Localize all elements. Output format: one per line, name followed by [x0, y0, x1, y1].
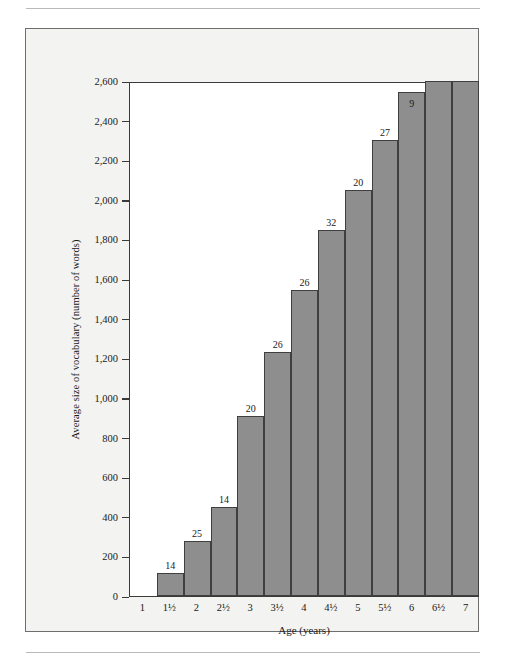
bar-value-label: 26	[291, 277, 318, 288]
bar-value-label: 20	[237, 403, 264, 414]
bar-column: 9	[398, 83, 425, 596]
y-tick-mark	[122, 517, 129, 518]
x-tick-label: 1½	[156, 601, 183, 615]
top-divider-rule	[26, 8, 480, 9]
bar-column: 32	[318, 83, 345, 596]
x-tick-label: 6	[398, 601, 425, 615]
y-tick-mark	[122, 319, 129, 320]
bar	[184, 541, 211, 596]
y-tick-mark	[122, 161, 129, 162]
bar-value-label: 32	[318, 217, 345, 228]
bar-column	[425, 83, 452, 596]
y-tick-label: 600	[102, 471, 118, 484]
x-tick-label: 2	[183, 601, 210, 615]
bar	[264, 352, 291, 596]
bar-value-label: 9	[398, 98, 425, 109]
x-tick-label: 4	[291, 601, 318, 615]
bar	[211, 507, 238, 596]
bar-column	[452, 83, 479, 596]
bar-value-label: 25	[184, 528, 211, 539]
x-tick-label: 3	[237, 601, 264, 615]
y-tick-mark	[122, 82, 129, 83]
y-tick-label: 2,000	[94, 194, 118, 207]
y-tick-label: 400	[102, 511, 118, 524]
y-tick-label: 200	[102, 550, 118, 563]
bar-column: 26	[264, 83, 291, 596]
x-axis-tick-labels: 11½22½33½44½55½66½7	[129, 601, 479, 615]
bar	[398, 92, 425, 596]
y-tick-mark	[122, 597, 129, 598]
bar-value-label: 14	[157, 560, 184, 571]
bar-series: 1425142026263220279	[130, 83, 479, 596]
bar-value-label: 26	[264, 339, 291, 350]
y-axis: 02004006008001,0001,2001,4001,6001,8002,…	[26, 82, 129, 597]
y-tick-label: 2,600	[94, 75, 118, 88]
bar	[237, 416, 264, 596]
y-tick-label: 1,400	[94, 313, 118, 326]
bar-column	[130, 83, 157, 596]
y-tick-label: 2,200	[94, 154, 118, 167]
bar	[345, 190, 372, 596]
y-tick-label: 800	[102, 432, 118, 445]
y-tick-mark	[122, 438, 129, 439]
bar	[291, 290, 318, 596]
y-tick-mark	[122, 280, 129, 281]
y-tick-label: 1,200	[94, 352, 118, 365]
plot-area: 1425142026263220279	[129, 82, 479, 597]
y-tick-mark	[122, 398, 129, 399]
bar-column: 20	[345, 83, 372, 596]
y-tick-mark	[122, 557, 129, 558]
y-tick-label: 1,800	[94, 233, 118, 246]
bar	[452, 81, 479, 596]
y-tick-mark	[122, 121, 129, 122]
x-tick-label: 5½	[371, 601, 398, 615]
figure-frame: Average size of vocabulary (number of wo…	[25, 28, 479, 632]
bar	[318, 230, 345, 596]
x-tick-label: 1	[129, 601, 156, 615]
y-tick-label: 1,000	[94, 392, 118, 405]
bar-column: 26	[291, 83, 318, 596]
x-tick-label: 7	[452, 601, 479, 615]
y-tick-mark	[122, 240, 129, 241]
bar-column: 20	[237, 83, 264, 596]
y-tick-mark	[122, 200, 129, 201]
bar-column: 14	[157, 83, 184, 596]
x-tick-label: 5	[344, 601, 371, 615]
bar	[425, 81, 452, 596]
bar-value-label: 27	[372, 127, 399, 138]
y-tick-label: 2,400	[94, 115, 118, 128]
bottom-divider-rule	[26, 652, 480, 653]
bar-column: 14	[211, 83, 238, 596]
bar-column: 25	[184, 83, 211, 596]
y-tick-mark	[122, 359, 129, 360]
x-tick-label: 4½	[317, 601, 344, 615]
x-axis-title: Age (years)	[129, 624, 479, 636]
x-tick-label: 2½	[210, 601, 237, 615]
x-tick-label: 6½	[425, 601, 452, 615]
x-tick-label: 3½	[264, 601, 291, 615]
y-tick-mark	[122, 478, 129, 479]
bar	[157, 573, 184, 596]
bar-value-label: 20	[345, 177, 372, 188]
bar-value-label: 14	[211, 494, 238, 505]
bar	[372, 140, 399, 596]
bar-column: 27	[372, 83, 399, 596]
y-tick-label: 1,600	[94, 273, 118, 286]
y-tick-label: 0	[113, 590, 118, 603]
